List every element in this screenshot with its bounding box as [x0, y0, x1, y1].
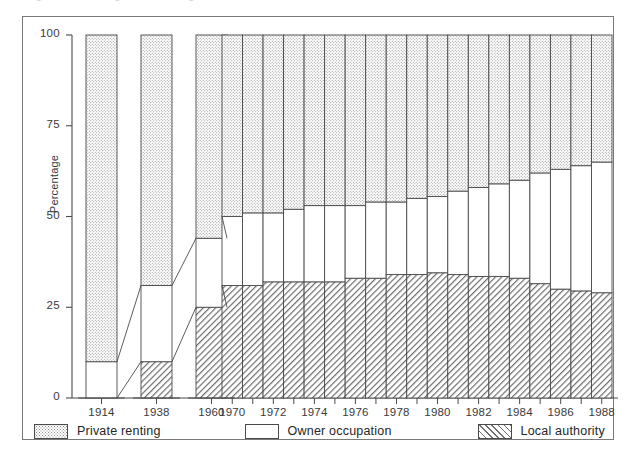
- x-tick-label: 1972: [250, 406, 296, 418]
- y-tick-label: 50: [26, 209, 60, 221]
- x-tick-label: 1982: [456, 406, 502, 418]
- legend-item-private-renting: Private renting: [34, 424, 161, 439]
- x-tick-label: 1938: [134, 406, 180, 418]
- x-tick-label: 1980: [415, 406, 461, 418]
- y-tick-label: 0: [26, 390, 60, 402]
- legend-label-local-authority: Local authority: [521, 424, 605, 438]
- legend-label-private-renting: Private renting: [77, 424, 161, 438]
- chart-frame: [22, 16, 614, 440]
- legend-swatch-local-authority: [478, 424, 512, 439]
- x-tick-label: 1986: [538, 406, 584, 418]
- y-tick-label: 25: [26, 299, 60, 311]
- x-tick-label: 1976: [332, 406, 378, 418]
- y-tick-label: 75: [26, 118, 60, 130]
- x-tick-label: 1914: [79, 406, 125, 418]
- legend-swatch-owner-occupation: [245, 424, 279, 439]
- legend-label-owner-occupation: Owner occupation: [288, 424, 392, 438]
- chart-root: Figure — Housing tenure in England and W…: [0, 0, 632, 450]
- cut-off-caption-text: Figure — Housing tenure in England and W…: [26, 0, 276, 1]
- y-axis-label: Percentage: [48, 124, 60, 244]
- cut-off-caption: Figure — Housing tenure in England and W…: [0, 0, 632, 12]
- legend-item-local-authority: Local authority: [478, 424, 605, 439]
- x-tick-label: 1978: [373, 406, 419, 418]
- x-tick-label: 1974: [291, 406, 337, 418]
- legend-swatch-private-renting: [34, 424, 68, 439]
- y-tick-label: 100: [26, 27, 60, 39]
- x-tick-label: 1970: [209, 406, 255, 418]
- x-tick-label: 1984: [497, 406, 543, 418]
- x-tick-label: 1988: [579, 406, 625, 418]
- chart-legend: Private renting Owner occupation Local a…: [24, 420, 612, 442]
- legend-item-owner-occupation: Owner occupation: [245, 424, 392, 439]
